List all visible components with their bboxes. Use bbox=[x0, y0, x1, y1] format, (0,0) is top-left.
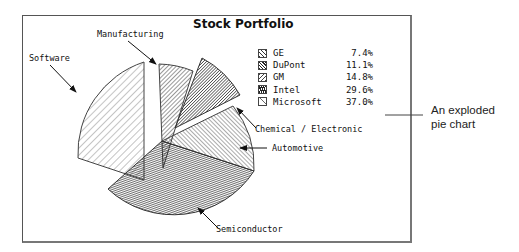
legend-swatch-icon bbox=[258, 61, 267, 70]
chart-title: Stock Portfolio bbox=[193, 17, 294, 31]
annotation-software: Software bbox=[29, 53, 70, 63]
chart-legend: GE 7.4% DuPont 11.1% GM 14.8% Intel 29.6… bbox=[258, 47, 373, 108]
legend-swatch-icon bbox=[258, 73, 267, 82]
legend-swatch-icon bbox=[258, 97, 267, 106]
annotation-automotive: Automotive bbox=[272, 143, 323, 153]
legend-item-ge: GE 7.4% bbox=[258, 47, 373, 59]
legend-item-dupont: DuPont 11.1% bbox=[258, 59, 373, 71]
legend-swatch-icon bbox=[258, 85, 267, 94]
legend-item-microsoft: Microsoft 37.0% bbox=[258, 96, 373, 108]
annotation-manufacturing: Manufacturing bbox=[97, 29, 164, 39]
legend-item-intel: Intel 29.6% bbox=[258, 84, 373, 96]
slice-microsoft bbox=[78, 62, 144, 180]
annotation-semiconductor: Semiconductor bbox=[216, 224, 283, 234]
annotation-chemical: Chemical / Electronic bbox=[255, 124, 362, 134]
figure-caption: An exploded pie chart bbox=[431, 103, 495, 131]
legend-item-gm: GM 14.8% bbox=[258, 71, 373, 83]
legend-swatch-icon bbox=[258, 49, 267, 58]
